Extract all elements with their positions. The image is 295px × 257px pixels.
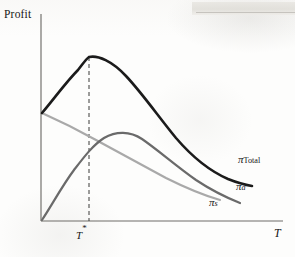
curve-label-pi-s: πs <box>209 196 218 208</box>
y-axis-label: Profit <box>4 8 31 20</box>
x-axis-label: T <box>274 226 281 241</box>
pi-subscript-total: Total <box>244 156 261 165</box>
curve-label-pi-total: πTotal <box>238 153 260 165</box>
pi-subscript-a: a <box>242 183 246 192</box>
curve-label-pi-a: πa <box>236 180 246 192</box>
pi-subscript-s: s <box>215 199 218 208</box>
x-axis-tick-t-star: T* <box>76 226 87 241</box>
chart-plot-area <box>0 0 295 257</box>
profit-curves-figure: Profit T T* πTotal πa πs <box>0 0 295 257</box>
t-star-asterisk: * <box>82 223 87 233</box>
